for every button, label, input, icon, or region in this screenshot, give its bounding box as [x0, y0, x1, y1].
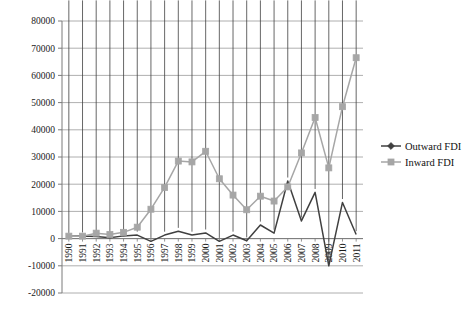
data-series — [66, 0, 359, 265]
y-axis-tick-labels: 8000070000600005000040000300002000010000… — [28, 16, 62, 298]
x-tick-label: 2003 — [242, 243, 252, 262]
x-tick-label: 2004 — [256, 243, 266, 262]
x-tick-label: 1996 — [146, 243, 156, 262]
series-line — [69, 58, 356, 236]
x-tick-label: 1994 — [119, 243, 129, 262]
y-tick-label: 30000 — [31, 152, 55, 162]
data-point-marker — [285, 184, 291, 190]
chart-canvas: 8000070000600005000040000300002000010000… — [0, 0, 467, 318]
data-point-marker — [298, 150, 304, 156]
y-tick-label: 40000 — [31, 125, 55, 135]
data-point-marker — [66, 233, 72, 239]
x-tick-label: 2005 — [269, 243, 279, 262]
y-tick-label: 60000 — [31, 71, 55, 81]
series-outward-fdi — [69, 0, 356, 265]
legend-label: Outward FDI — [405, 141, 462, 152]
data-point-marker — [203, 148, 209, 154]
x-tick-label: 1995 — [133, 243, 143, 262]
data-point-marker — [162, 184, 168, 190]
y-tick-label: -20000 — [28, 288, 55, 298]
data-point-marker — [80, 233, 86, 239]
data-point-marker — [216, 176, 222, 182]
data-point-marker — [107, 232, 113, 238]
x-tick-label: 1993 — [105, 243, 115, 262]
x-tick-label: 1992 — [92, 243, 102, 262]
fdi-line-chart: 8000070000600005000040000300002000010000… — [0, 0, 467, 318]
x-tick-label: 1999 — [187, 243, 197, 262]
data-point-marker — [312, 115, 318, 121]
x-tick-label: 1991 — [78, 243, 88, 262]
y-tick-label: 20000 — [31, 180, 55, 190]
x-tick-label: 2000 — [201, 243, 211, 262]
y-tick-label: 0 — [50, 234, 55, 244]
y-tick-label: 70000 — [31, 44, 55, 54]
data-point-marker — [257, 193, 263, 199]
data-point-marker — [134, 224, 140, 230]
y-tick-label: 10000 — [31, 207, 55, 217]
x-tick-label: 2002 — [228, 243, 238, 262]
legend-marker-swatch — [388, 143, 395, 150]
data-point-marker — [326, 165, 332, 171]
x-tick-label: 1998 — [174, 243, 184, 262]
data-point-marker — [189, 159, 195, 165]
data-point-marker — [339, 104, 345, 110]
data-point-marker — [244, 207, 250, 213]
data-point-marker — [93, 230, 99, 236]
x-tick-label: 2001 — [215, 243, 225, 262]
data-point-marker — [271, 198, 277, 204]
data-point-marker — [230, 192, 236, 198]
x-axis-tick-labels: 1990199119921993199419951996199719981999… — [64, 239, 361, 263]
legend-marker-swatch — [388, 159, 394, 165]
y-tick-label: 80000 — [31, 16, 55, 26]
data-point-marker — [175, 158, 181, 164]
y-tick-label: 50000 — [31, 98, 55, 108]
x-tick-label: 2007 — [297, 243, 307, 262]
legend-label: Inward FDI — [405, 157, 455, 168]
data-point-marker — [353, 55, 359, 61]
chart-legend: Outward FDIInward FDI — [381, 141, 462, 168]
data-point-marker — [121, 229, 127, 235]
x-tick-label: 2011 — [352, 243, 362, 262]
x-tick-label: 2008 — [311, 243, 321, 262]
data-point-marker — [148, 206, 154, 212]
x-tick-label: 2010 — [338, 243, 348, 262]
x-tick-label: 1990 — [64, 243, 74, 262]
x-tick-label: 2006 — [283, 243, 293, 262]
x-tick-label: 1997 — [160, 243, 170, 262]
y-tick-label: -10000 — [28, 261, 55, 271]
